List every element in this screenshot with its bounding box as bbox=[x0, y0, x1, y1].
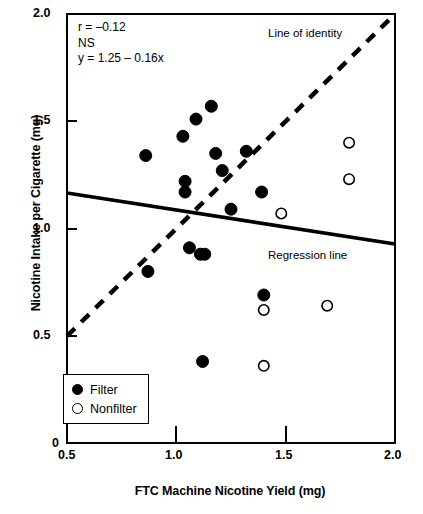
legend-item-nonfilter: Nonfilter bbox=[72, 399, 137, 418]
data-point-filter bbox=[142, 265, 154, 277]
legend-label-filter: Filter bbox=[90, 383, 118, 397]
x-axis-label: FTC Machine Nicotine Yield (mg) bbox=[60, 484, 400, 498]
data-point-filter bbox=[197, 355, 209, 367]
significance-text: NS bbox=[78, 36, 164, 52]
data-point-nonfilter bbox=[259, 361, 269, 371]
scatter-plot-figure: r = –0.12 NS y = 1.25 – 0.16x Line of id… bbox=[0, 0, 423, 514]
xtick-label-0-5: 0.5 bbox=[58, 448, 75, 462]
data-point-filter bbox=[140, 150, 152, 162]
data-point-filter bbox=[179, 175, 191, 187]
data-point-nonfilter bbox=[276, 208, 286, 218]
data-point-filter bbox=[210, 147, 222, 159]
statistics-annotation: r = –0.12 NS y = 1.25 – 0.16x bbox=[78, 20, 164, 67]
data-point-nonfilter bbox=[322, 301, 332, 311]
correlation-text: r = –0.12 bbox=[78, 20, 164, 36]
equation-text: y = 1.25 – 0.16x bbox=[78, 51, 164, 67]
data-point-filter bbox=[258, 289, 270, 301]
data-point-filter bbox=[225, 203, 237, 215]
data-point-nonfilter bbox=[344, 174, 354, 184]
xtick-label-1-0: 1.0 bbox=[165, 448, 182, 462]
data-point-filter bbox=[205, 100, 217, 112]
data-point-nonfilter bbox=[344, 138, 354, 148]
data-point-filter bbox=[256, 186, 268, 198]
identity-line-label: Line of identity bbox=[268, 27, 342, 39]
open-circle-icon bbox=[72, 403, 83, 414]
legend: Filter Nonfilter bbox=[63, 374, 149, 424]
legend-label-nonfilter: Nonfilter bbox=[90, 402, 137, 416]
data-point-filter bbox=[183, 242, 195, 254]
y-axis-label: Nicotine Intake per Cigarette (mg) bbox=[29, 83, 43, 343]
data-point-filter bbox=[240, 145, 252, 157]
xtick-label-2-0: 2.0 bbox=[384, 448, 401, 462]
regression-line bbox=[67, 193, 395, 244]
data-point-nonfilter bbox=[259, 305, 269, 315]
data-points-filter bbox=[140, 100, 270, 367]
legend-item-filter: Filter bbox=[72, 380, 137, 399]
data-point-filter bbox=[199, 248, 211, 260]
plot-canvas bbox=[0, 0, 423, 514]
data-point-filter bbox=[216, 165, 228, 177]
regression-line-label: Regression line bbox=[268, 249, 347, 261]
data-point-filter bbox=[179, 186, 191, 198]
filled-circle-icon bbox=[72, 384, 83, 395]
data-point-filter bbox=[190, 113, 202, 125]
data-point-filter bbox=[177, 130, 189, 142]
ytick-label-2-0: 2.0 bbox=[33, 6, 50, 20]
xtick-label-1-5: 1.5 bbox=[275, 448, 292, 462]
